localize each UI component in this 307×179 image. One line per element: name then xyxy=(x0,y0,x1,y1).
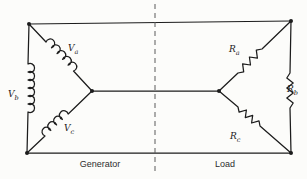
junction-dot-top-right xyxy=(289,19,293,23)
junction-dot-load-neutral xyxy=(217,89,221,93)
label-va-subscript: a xyxy=(75,48,79,56)
junction-dot-top-left xyxy=(27,22,31,26)
label-vc-subscript: c xyxy=(71,128,75,136)
paper-background xyxy=(0,0,307,179)
junction-dot-generator-neutral xyxy=(90,89,94,93)
label-rc-subscript: c xyxy=(237,136,241,144)
load-section-label: Load xyxy=(215,159,235,169)
generator-section-label: Generator xyxy=(80,159,121,169)
junction-dot-bottom-right xyxy=(289,151,293,155)
circuit-diagram: Va Vb Vc Ra Rb Rc Generator Load xyxy=(0,0,307,179)
circuit-figure: Va Vb Vc Ra Rb Rc Generator Load xyxy=(0,0,307,179)
junction-dot-bottom-left xyxy=(25,151,29,155)
label-vb-subscript: b xyxy=(15,94,19,102)
label-ra-subscript: a xyxy=(236,49,240,57)
label-rb-subscript: b xyxy=(294,89,298,97)
